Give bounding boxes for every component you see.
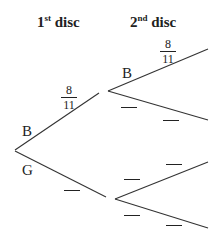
blank-B-G — [163, 120, 179, 121]
blank-G-G — [166, 225, 182, 226]
label-second-B: B — [122, 66, 132, 81]
branch-G-G — [115, 199, 208, 228]
probability-B-B: 8 11 — [160, 38, 176, 65]
probability-tree-diagram: 1st disc 2nd disc 8 11 B G 8 11 B — [0, 0, 221, 237]
label-first-G: G — [22, 163, 33, 178]
blank-B-G-left — [121, 107, 137, 108]
probability-first-B: 8 11 — [61, 84, 77, 111]
blank-first-G — [64, 190, 80, 191]
branch-B-G — [108, 91, 208, 120]
header-first-disc: 1st disc — [37, 14, 80, 31]
blank-G-B — [166, 164, 182, 165]
blank-G-B-left — [124, 179, 140, 180]
header-second-disc: 2nd disc — [130, 14, 176, 31]
label-first-B: B — [22, 124, 32, 139]
blank-G-G-left — [124, 215, 140, 216]
branch-first-B — [15, 93, 99, 150]
branch-G-B — [115, 162, 208, 199]
tree-branches — [0, 0, 221, 237]
